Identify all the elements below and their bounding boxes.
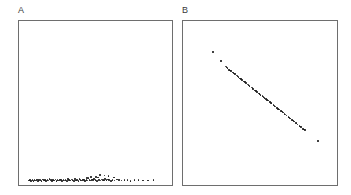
data-point xyxy=(229,70,231,72)
data-point xyxy=(124,179,126,181)
panel-a xyxy=(18,20,173,186)
data-point xyxy=(66,180,68,182)
data-point xyxy=(113,177,115,179)
data-point xyxy=(121,180,123,182)
data-point xyxy=(244,81,246,83)
data-point xyxy=(103,180,105,182)
plot-area-a xyxy=(19,21,172,185)
data-point xyxy=(220,60,222,62)
data-point xyxy=(127,179,129,181)
data-point xyxy=(266,99,268,101)
data-point xyxy=(252,87,254,89)
data-point xyxy=(134,179,136,181)
data-point xyxy=(138,179,140,181)
data-point xyxy=(212,51,214,53)
data-point xyxy=(233,73,235,75)
data-point xyxy=(147,180,149,182)
data-point xyxy=(153,179,155,181)
data-point xyxy=(130,180,132,182)
data-point xyxy=(78,180,80,182)
data-point xyxy=(108,175,110,177)
panel-label-a: A xyxy=(18,5,24,15)
data-point xyxy=(255,90,257,92)
data-point xyxy=(240,78,242,80)
data-point xyxy=(97,177,99,179)
data-point xyxy=(95,176,97,178)
panel-b xyxy=(182,20,338,186)
data-point xyxy=(90,176,92,178)
data-point xyxy=(270,102,272,104)
data-point xyxy=(86,177,88,179)
data-point xyxy=(104,175,106,177)
data-point xyxy=(263,96,265,98)
plot-area-b xyxy=(183,21,337,185)
data-point xyxy=(277,108,279,110)
plot-frame-a xyxy=(18,20,173,186)
plot-frame-b xyxy=(182,20,338,186)
data-point xyxy=(303,129,305,131)
panel-label-b: B xyxy=(182,5,188,15)
data-point xyxy=(99,174,101,176)
data-point xyxy=(317,140,319,142)
data-point xyxy=(142,180,144,182)
data-point xyxy=(96,180,98,182)
data-point xyxy=(118,179,120,181)
figure-container: A B xyxy=(0,0,351,195)
